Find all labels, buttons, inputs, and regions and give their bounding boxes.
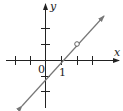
x-axis-label: x [114, 47, 120, 58]
x-tick-label-one: 1 [59, 67, 66, 78]
open-circle-point [75, 42, 80, 47]
origin-label: 0 [38, 64, 45, 75]
coordinate-plane [0, 0, 123, 111]
y-axis-label: y [50, 1, 56, 12]
